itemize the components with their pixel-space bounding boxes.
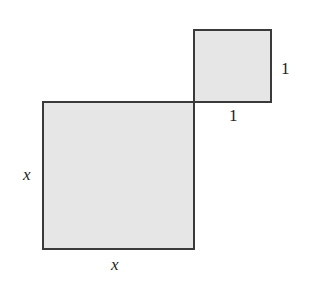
large-square <box>42 101 195 250</box>
large-square-bottom-label: x <box>111 256 119 273</box>
large-square-left-label: x <box>23 166 31 183</box>
small-square-bottom-label: 1 <box>229 107 238 124</box>
small-square <box>193 29 272 103</box>
small-square-right-label: 1 <box>281 60 290 77</box>
